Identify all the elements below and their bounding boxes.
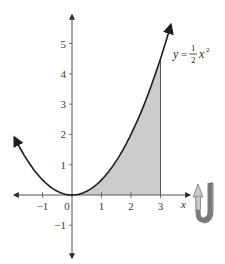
svg-text:y: y (172, 47, 179, 61)
function-plot: −10123 −112345 x y = 1 2 x 2 (0, 0, 225, 264)
curve-equation-label: y = 1 2 x 2 (172, 43, 210, 65)
y-tick-label: 4 (61, 68, 67, 80)
x-tick-label: 1 (99, 200, 105, 212)
y-tick-label: 2 (61, 128, 67, 140)
svg-text:1: 1 (191, 43, 196, 53)
svg-text:=: = (181, 48, 187, 60)
x-axis-label: x (180, 198, 186, 210)
svg-text:2: 2 (206, 46, 210, 54)
y-tick-label: −1 (54, 219, 66, 231)
rotation-arrow-icon (193, 183, 213, 223)
x-tick-label: 2 (128, 200, 134, 212)
x-tick-label: 3 (158, 200, 164, 212)
svg-text:2: 2 (191, 55, 196, 65)
x-tick-label: −1 (37, 200, 49, 212)
y-tick-label: 5 (61, 38, 67, 50)
svg-text:x: x (198, 47, 205, 61)
x-tick-label: 0 (64, 200, 70, 212)
y-tick-label: 1 (61, 159, 67, 171)
y-tick-label: 3 (61, 98, 67, 110)
shaded-area (72, 59, 161, 195)
